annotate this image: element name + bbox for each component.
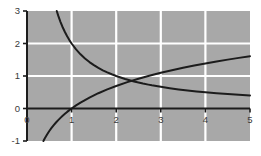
y-tick-label: 1 — [15, 70, 20, 81]
x-tick-label: 0 — [24, 114, 29, 125]
y-tick-label: 0 — [15, 103, 20, 114]
y-tick-label: 2 — [15, 38, 20, 49]
x-tick-label: 2 — [114, 114, 119, 125]
y-tick-label: 3 — [15, 5, 20, 16]
x-tick-label: 5 — [247, 114, 252, 125]
x-tick-label: 3 — [158, 114, 163, 125]
chart-figure: -10123012345 — [0, 0, 261, 156]
y-tick-label: -1 — [12, 135, 20, 146]
line-chart: -10123012345 — [0, 0, 261, 156]
x-tick-label: 4 — [203, 114, 208, 125]
x-tick-label: 1 — [69, 114, 74, 125]
